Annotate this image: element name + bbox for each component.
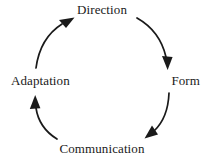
arrow-form-to-communication [145,93,170,139]
node-label-communication: Communication [0,142,204,156]
arc-communication-to-adaptation [36,108,57,139]
arc-adaptation-to-direction [36,24,62,68]
arrowhead-into-adaptation [30,95,41,109]
arrowhead-into-form [162,56,173,70]
arrowhead-into-direction [59,18,75,29]
arrow-communication-to-adaptation [30,95,57,139]
node-label-adaptation: Adaptation [11,74,70,88]
arrowhead-into-communication [145,126,159,139]
cycle-diagram: Direction Form Communication Adaptation [0,0,204,162]
arrow-direction-to-form [137,18,173,70]
arc-direction-to-form [137,18,166,57]
node-label-direction: Direction [0,3,204,17]
arc-form-to-communication [154,93,169,131]
arrow-adaptation-to-direction [36,18,75,69]
